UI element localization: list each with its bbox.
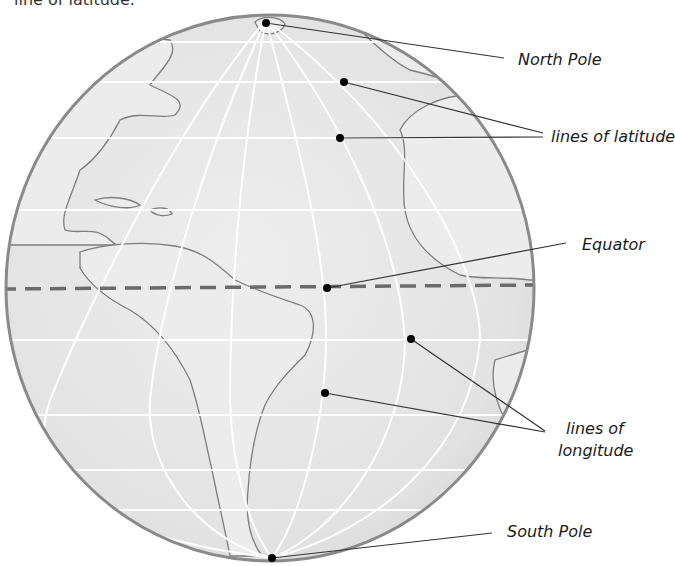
caption-fragment: line of latitude. [14,0,135,10]
label-lines-of-longitude-2: longitude [558,441,633,461]
label-equator: Equator [582,235,645,255]
label-north-pole: North Pole [518,50,602,70]
globe-diagram: line of latitude. [0,0,675,566]
latitude-dot-2 [336,134,344,142]
latitude-dot-1 [340,78,348,86]
label-lines-of-longitude-1: lines of [566,419,624,439]
longitude-dot-1 [407,335,415,343]
equator-dot [323,284,331,292]
longitude-dot-2 [321,389,329,397]
label-lines-of-latitude: lines of latitude [551,127,675,147]
north-pole-dot [262,19,270,27]
globe-svg [0,0,675,566]
label-south-pole: South Pole [507,522,592,542]
south-pole-dot [268,554,276,562]
